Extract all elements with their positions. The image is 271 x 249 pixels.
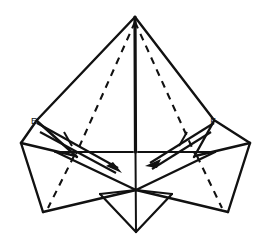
left-crease-upper-line <box>76 22 135 154</box>
left-wing-group <box>21 120 136 212</box>
origami-figure-canvas: E F <box>0 0 271 249</box>
right-shoulder-to-wingtip-edge <box>214 120 250 143</box>
bottom-flap-right-v <box>136 194 172 232</box>
fold-arrow-right-stroke-lower <box>152 132 211 169</box>
origami-diagram: E F <box>0 0 271 249</box>
right-wingtip-to-mid-edge <box>195 143 250 156</box>
fold-arrow-right-tick <box>179 132 187 146</box>
fold-arrow-right <box>145 123 214 169</box>
center-spine-upper <box>135 17 136 152</box>
apex-to-right-shoulder-edge <box>135 17 214 120</box>
left-lower-outer-edge <box>43 190 136 212</box>
left-mid-to-center-bottom-edge <box>56 152 136 190</box>
bottom-flap-left-v <box>100 194 136 232</box>
right-wingtip-down-edge <box>228 143 250 212</box>
upper-triangle-group <box>37 17 214 120</box>
apex-to-left-shoulder-edge <box>37 17 135 120</box>
right-crease-lower-line <box>197 156 222 208</box>
point-label-e: E <box>31 116 37 126</box>
center-spine-lower <box>136 152 137 232</box>
center-spine-group <box>135 17 136 232</box>
left-wingtip-down-edge <box>21 143 43 212</box>
fold-arrow-left <box>37 123 122 173</box>
left-crease-lower-line <box>48 156 74 208</box>
point-label-f: F <box>210 116 216 126</box>
